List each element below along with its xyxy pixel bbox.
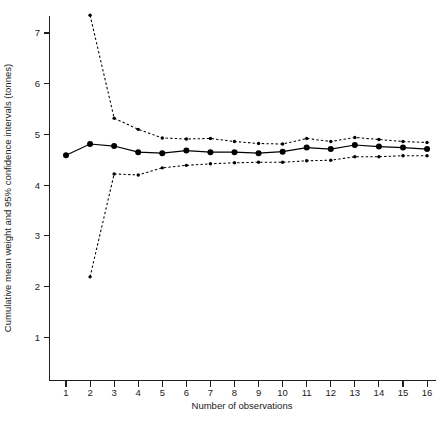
y-tick-label: 6 (35, 78, 40, 89)
y-axis-title: Cumulative mean weight and 95% confidenc… (2, 64, 13, 332)
data-point-marker (425, 154, 428, 157)
data-point-marker (280, 149, 286, 155)
data-point-marker (328, 146, 334, 152)
x-tick-label: 7 (208, 387, 213, 398)
x-tick-label: 3 (111, 387, 116, 398)
data-point-marker (185, 137, 188, 140)
data-point-marker (377, 138, 380, 141)
x-axis-title: Number of observations (192, 400, 293, 411)
data-point-marker (425, 141, 428, 144)
data-point-marker (183, 148, 189, 154)
data-series-layer (63, 14, 430, 279)
x-tick-label: 2 (87, 387, 92, 398)
data-point-marker (209, 137, 212, 140)
data-point-marker (401, 154, 404, 157)
data-point-marker (63, 152, 69, 158)
cumulative-mean-weight-chart: 1234567 12345678910111213141516 Number o… (0, 0, 444, 423)
data-point-marker (207, 149, 213, 155)
data-point-marker (353, 155, 356, 158)
data-point-marker (329, 140, 332, 143)
data-point-marker (185, 164, 188, 167)
x-tick-label: 4 (136, 387, 141, 398)
x-tick-label: 8 (232, 387, 237, 398)
x-tick-label: 16 (422, 387, 433, 398)
series-line (90, 156, 427, 277)
data-point-marker (209, 162, 212, 165)
y-tick-label: 2 (35, 281, 40, 292)
data-point-marker (424, 146, 430, 152)
x-tick-label: 12 (325, 387, 336, 398)
x-axis-ticks: 12345678910111213141516 (63, 381, 432, 399)
data-point-marker (231, 149, 237, 155)
data-point-marker (137, 128, 140, 131)
data-point-marker (304, 145, 310, 151)
data-point-marker (281, 142, 284, 145)
x-tick-label: 1 (63, 387, 68, 398)
data-point-marker (112, 172, 115, 175)
y-tick-label: 1 (35, 332, 40, 343)
data-point-marker (329, 159, 332, 162)
data-point-marker (256, 150, 262, 156)
data-point-marker (401, 140, 404, 143)
data-point-marker (305, 137, 308, 140)
data-point-marker (400, 145, 406, 151)
x-tick-label: 13 (350, 387, 361, 398)
data-point-marker (257, 161, 260, 164)
data-point-marker (257, 142, 260, 145)
y-tick-label: 5 (35, 129, 40, 140)
data-point-marker (88, 275, 91, 278)
y-tick-label: 4 (35, 180, 40, 191)
x-tick-label: 6 (184, 387, 189, 398)
data-point-marker (233, 161, 236, 164)
series-line (90, 15, 427, 144)
data-point-marker (281, 161, 284, 164)
data-point-marker (111, 143, 117, 149)
y-tick-label: 3 (35, 230, 40, 241)
x-tick-label: 5 (160, 387, 165, 398)
chart-svg: 1234567 12345678910111213141516 Number o… (0, 0, 444, 423)
data-point-marker (305, 159, 308, 162)
data-point-marker (353, 136, 356, 139)
x-tick-label: 14 (374, 387, 385, 398)
data-point-marker (377, 155, 380, 158)
x-tick-label: 11 (302, 387, 312, 398)
data-point-marker (352, 142, 358, 148)
axes-group (50, 16, 437, 381)
data-point-marker (159, 150, 165, 156)
y-axis-ticks: 1234567 (35, 27, 50, 342)
data-point-marker (137, 173, 140, 176)
x-tick-label: 10 (277, 387, 288, 398)
data-point-marker (88, 14, 91, 17)
x-tick-label: 15 (398, 387, 409, 398)
data-point-marker (87, 141, 93, 147)
data-point-marker (112, 116, 115, 119)
y-tick-label: 7 (35, 27, 40, 38)
series-line (66, 144, 427, 155)
data-point-marker (135, 149, 141, 155)
x-tick-label: 9 (256, 387, 261, 398)
data-point-marker (161, 166, 164, 169)
data-point-marker (233, 140, 236, 143)
data-point-marker (376, 144, 382, 150)
data-point-marker (161, 136, 164, 139)
